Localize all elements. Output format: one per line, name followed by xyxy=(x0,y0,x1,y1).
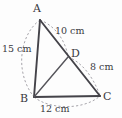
measure-label-ad: 10 cm xyxy=(55,26,84,36)
measure-label-ab: 15 cm xyxy=(2,44,31,54)
edge-ab xyxy=(34,20,40,97)
vertex-label-a: A xyxy=(33,3,41,14)
vertex-label-d: D xyxy=(71,48,80,59)
measure-label-bc: 12 cm xyxy=(40,104,69,114)
edge-bd xyxy=(34,57,68,97)
measure-label-dc: 8 cm xyxy=(90,62,113,72)
edge-bc xyxy=(34,96,100,97)
geometry-figure: A B C D 15 cm 10 cm 8 cm 12 cm xyxy=(0,0,122,118)
vertex-label-c: C xyxy=(103,91,111,102)
vertex-label-b: B xyxy=(20,93,28,104)
